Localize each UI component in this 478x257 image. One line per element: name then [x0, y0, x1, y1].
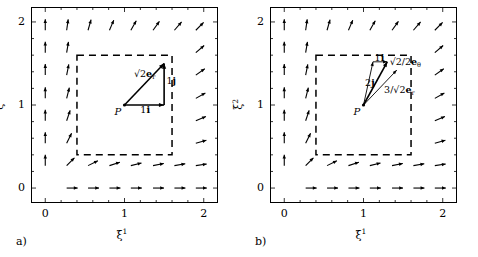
base-point-label: P	[354, 106, 361, 117]
x-tick-label: 0	[35, 207, 55, 220]
y-tick-label: 2	[9, 15, 25, 28]
x-tick-label: 0	[274, 207, 294, 220]
panel-a: 0 1 2 0 1 2 ξ1 ξ2 a) √2er1i1jP	[0, 0, 239, 257]
y-axis-title: ξ2	[0, 92, 6, 116]
y-tick-label: 0	[248, 181, 264, 194]
panel-b: 0 1 2 0 1 2 ξ1 ξ2 b) √2/2eθ3/√2er2j1iP	[239, 0, 478, 257]
vector-label-radial-component: 3/√2er	[384, 85, 415, 96]
x-tick-label: 1	[354, 207, 374, 220]
vector-label-resultant: √2er	[134, 69, 155, 80]
vector-label-resultant: √2/2eθ	[390, 57, 421, 68]
vector-label-horizontal-component: 1i	[375, 53, 385, 63]
base-point-label: P	[115, 106, 122, 117]
panel-caption-a: a)	[16, 235, 27, 248]
x-tick-label: 2	[194, 207, 214, 220]
x-tick-label: 1	[115, 207, 135, 220]
vector-label-vertical-component: 1j	[166, 76, 175, 86]
vector-label-horizontal-component: 1i	[140, 105, 150, 115]
x-tick-label: 2	[433, 207, 453, 220]
x-axis-title: ξ1	[356, 227, 367, 242]
y-tick-label: 2	[248, 15, 264, 28]
y-tick-label: 0	[9, 181, 25, 194]
panel-caption-b: b)	[255, 235, 266, 248]
x-axis-title: ξ1	[117, 227, 128, 242]
y-axis-title: ξ2	[231, 92, 246, 116]
vector-label-vertical-component: 2j	[365, 78, 374, 88]
y-tick-label: 1	[9, 98, 25, 111]
y-tick-label: 1	[248, 98, 264, 111]
